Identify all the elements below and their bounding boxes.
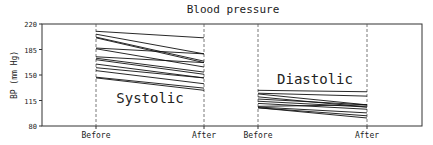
diastolic-annotation: Diastolic bbox=[277, 71, 353, 87]
systolic-subject-line bbox=[96, 77, 204, 88]
diastolic-subject-line bbox=[258, 108, 367, 118]
chart-canvas: Blood pressure 80115150185220 BP (mm Hg)… bbox=[0, 0, 433, 145]
systolic-subject-line bbox=[96, 78, 204, 90]
x-label-systolic-before: Before bbox=[82, 131, 111, 140]
y-axis: 80115150185220 bbox=[24, 21, 42, 131]
systolic-subject-line bbox=[96, 64, 204, 78]
y-tick-label: 150 bbox=[24, 72, 37, 80]
y-axis-label: BP (mm Hg) bbox=[10, 51, 19, 99]
y-tick-label: 185 bbox=[24, 47, 37, 55]
y-tick-label: 220 bbox=[24, 21, 37, 29]
y-tick-label: 80 bbox=[29, 123, 37, 131]
x-label-systolic-after: After bbox=[192, 131, 216, 140]
systolic-annotation: Systolic bbox=[116, 90, 183, 106]
x-label-diastolic-before: Before bbox=[244, 131, 273, 140]
chart-title: Blood pressure bbox=[187, 3, 280, 16]
blood-pressure-chart: Blood pressure 80115150185220 BP (mm Hg)… bbox=[0, 0, 433, 145]
diastolic-subject-line bbox=[258, 90, 367, 91]
y-tick-label: 115 bbox=[24, 98, 37, 106]
x-label-diastolic-after: After bbox=[355, 131, 379, 140]
systolic-subject-line bbox=[96, 58, 204, 72]
plot-frame bbox=[42, 24, 422, 126]
systolic-subject-line bbox=[96, 38, 204, 63]
